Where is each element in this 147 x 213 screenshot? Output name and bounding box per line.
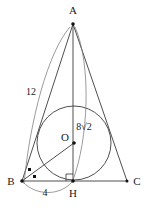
measure-label-ab: 12 bbox=[26, 86, 36, 97]
center-dot-O bbox=[72, 141, 76, 145]
arc-measure-12 bbox=[24, 27, 70, 184]
vertex-dot-C bbox=[126, 180, 129, 183]
angle-tick-b-1 bbox=[28, 168, 31, 171]
segment-AC bbox=[73, 24, 127, 181]
vertex-label-B: B bbox=[7, 175, 14, 187]
measure-label-ah: 8√2 bbox=[76, 121, 92, 132]
arc-measure-4 bbox=[23, 182, 72, 193]
segment-AB bbox=[22, 24, 73, 181]
geometry-figure: A B C H O 12 8√2 4 bbox=[0, 0, 147, 213]
vertex-label-A: A bbox=[69, 4, 77, 16]
angle-tick-b-2 bbox=[33, 175, 36, 178]
geometry-canvas: A B C H O 12 8√2 4 bbox=[0, 0, 147, 213]
center-label-O: O bbox=[61, 131, 69, 143]
vertex-dot-H bbox=[71, 179, 75, 183]
vertex-label-C: C bbox=[133, 175, 140, 187]
arc-measure-8root2 bbox=[73, 27, 86, 180]
vertex-label-H: H bbox=[69, 187, 77, 199]
vertex-dot-A bbox=[71, 22, 75, 26]
measure-label-bh: 4 bbox=[43, 187, 48, 198]
vertex-dot-B bbox=[20, 179, 24, 183]
